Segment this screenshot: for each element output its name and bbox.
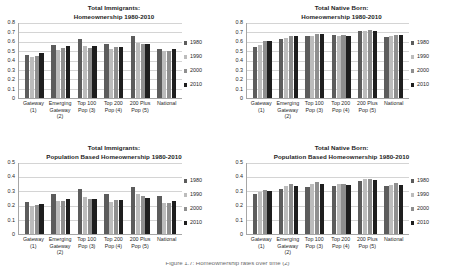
bar-group bbox=[127, 23, 154, 98]
legend-item-2010[interactable]: 2010 bbox=[184, 216, 226, 230]
bar-1990 bbox=[310, 36, 314, 98]
bar-group bbox=[154, 163, 181, 234]
bar-1980 bbox=[253, 194, 257, 234]
bar-2010 bbox=[39, 53, 43, 98]
legend-item-2000[interactable]: 2000 bbox=[184, 202, 226, 216]
x-axis-label-line: Emerging bbox=[275, 100, 302, 107]
bar-group bbox=[21, 23, 48, 98]
plot-frame bbox=[18, 163, 182, 235]
bar-2010 bbox=[66, 46, 70, 99]
chart-title-line2: Population Based Homeownership 1980-2010 bbox=[228, 152, 455, 161]
legend-item-1980[interactable]: 1980 bbox=[184, 36, 226, 50]
bar-1990 bbox=[284, 38, 288, 98]
x-axis-label-line: Gateway bbox=[275, 243, 302, 250]
bar-groups bbox=[19, 163, 182, 234]
x-axis-category-label: Top 200Pop (4) bbox=[328, 236, 355, 256]
chart-title-line2: Homeownership 1980-2010 bbox=[228, 12, 455, 21]
x-axis-label-line: Pop (3) bbox=[73, 107, 100, 114]
x-axis-category-label: 200 PlusPop (5) bbox=[127, 236, 154, 256]
legend-item-2000[interactable]: 2000 bbox=[184, 64, 226, 78]
x-axis-label-line: Gateway bbox=[20, 100, 47, 107]
bar-group bbox=[381, 23, 407, 98]
bar-2010 bbox=[267, 41, 271, 98]
x-axis-label-line: 200 Plus bbox=[127, 236, 154, 243]
bar-1980 bbox=[279, 39, 283, 98]
legend-label: 1990 bbox=[190, 192, 202, 197]
bar-2010 bbox=[399, 185, 403, 234]
bar-2000 bbox=[88, 48, 92, 98]
legend-item-1980[interactable]: 1980 bbox=[411, 36, 453, 50]
bar-group bbox=[249, 23, 275, 98]
y-axis-tick-label: 0 bbox=[240, 232, 243, 237]
bar-2010 bbox=[145, 198, 149, 234]
x-axis-label-line: Top 100 bbox=[301, 100, 328, 107]
legend-swatch-icon bbox=[184, 179, 187, 182]
bar-2010 bbox=[346, 185, 350, 234]
y-axis-tick-label: 0 bbox=[240, 96, 243, 101]
x-axis-label-line: (2) bbox=[47, 249, 74, 256]
legend-item-2010[interactable]: 2010 bbox=[411, 216, 453, 230]
legend-swatch-icon bbox=[411, 221, 414, 224]
bar-1980 bbox=[157, 49, 161, 98]
legend-item-1980[interactable]: 1980 bbox=[411, 174, 453, 188]
bar-1980 bbox=[358, 31, 362, 99]
legend-label: 1980 bbox=[417, 40, 429, 45]
legend-item-1990[interactable]: 1990 bbox=[184, 188, 226, 202]
legend-item-2000[interactable]: 2000 bbox=[411, 202, 453, 216]
chart-panel-total-native-born-population-based: Total Native Born: Population Based Home… bbox=[228, 140, 455, 276]
x-axis-label-line: 200 Plus bbox=[354, 100, 381, 107]
legend-item-1990[interactable]: 1990 bbox=[411, 50, 453, 64]
legend-item-1980[interactable]: 1980 bbox=[184, 174, 226, 188]
bar-groups bbox=[19, 23, 182, 98]
bar-2010 bbox=[294, 36, 298, 98]
bar-2000 bbox=[114, 47, 118, 98]
bar-2000 bbox=[141, 44, 145, 98]
plot-area bbox=[246, 163, 409, 235]
legend-label: 2010 bbox=[190, 220, 202, 225]
bar-group bbox=[302, 23, 328, 98]
chart-legend: 1980199020002010 bbox=[184, 36, 226, 92]
x-axis-label-line: (1) bbox=[20, 107, 47, 114]
bar-group bbox=[328, 23, 354, 98]
x-axis-category-label: Gateway(1) bbox=[20, 100, 47, 120]
bar-1990 bbox=[136, 194, 140, 234]
bar-2000 bbox=[35, 205, 39, 234]
x-axis-label-line: Top 200 bbox=[100, 236, 127, 243]
legend-label: 1980 bbox=[417, 178, 429, 183]
x-axis-category-label: EmergingGateway(2) bbox=[275, 100, 302, 120]
bar-2010 bbox=[92, 199, 96, 235]
x-axis-label-line: Pop (4) bbox=[100, 243, 127, 250]
bar-1990 bbox=[83, 197, 87, 234]
y-axis-tick-label: 0.1 bbox=[8, 218, 16, 223]
x-axis-label-line: Emerging bbox=[47, 100, 74, 107]
bar-1980 bbox=[131, 36, 135, 98]
bar-1990 bbox=[136, 43, 140, 98]
bar-1990 bbox=[30, 57, 34, 98]
legend-item-2010[interactable]: 2010 bbox=[184, 78, 226, 92]
x-axis-label-line: Gateway bbox=[20, 236, 47, 243]
y-axis-tick-label: 0.3 bbox=[8, 68, 16, 73]
bar-group bbox=[101, 163, 128, 234]
x-axis-category-label: Top 100Pop (3) bbox=[73, 236, 100, 256]
x-axis-category-label: EmergingGateway(2) bbox=[275, 236, 302, 256]
legend-item-2010[interactable]: 2010 bbox=[411, 78, 453, 92]
legend-label: 2010 bbox=[417, 82, 429, 87]
legend-swatch-icon bbox=[411, 83, 414, 86]
x-axis-category-label: Top 100Pop (3) bbox=[73, 100, 100, 120]
bar-2010 bbox=[373, 31, 377, 99]
bar-1980 bbox=[25, 55, 29, 98]
x-axis-label-line: (1) bbox=[248, 107, 275, 114]
x-axis-label-line: Pop (5) bbox=[354, 243, 381, 250]
x-axis-category-label: Gateway(1) bbox=[20, 236, 47, 256]
bar-1990 bbox=[56, 50, 60, 98]
x-axis-category-label: Gateway(1) bbox=[248, 100, 275, 120]
bar-1990 bbox=[162, 203, 166, 234]
legend-item-1990[interactable]: 1990 bbox=[411, 188, 453, 202]
bar-2010 bbox=[119, 47, 123, 98]
legend-item-2000[interactable]: 2000 bbox=[411, 64, 453, 78]
bar-1980 bbox=[78, 189, 82, 234]
y-axis-tick-label: 0.2 bbox=[236, 203, 244, 208]
bar-1980 bbox=[358, 181, 362, 234]
legend-item-1990[interactable]: 1990 bbox=[184, 50, 226, 64]
bar-group bbox=[275, 163, 301, 234]
